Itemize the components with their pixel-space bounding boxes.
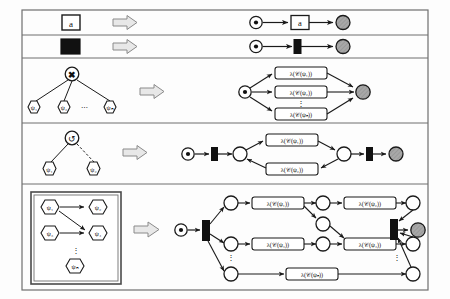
loop-do-transition: λ(𝒞(ψ₁)) (266, 134, 318, 146)
transition-label: λ(𝒞(ψₙ)) (301, 271, 323, 279)
and-split-transition (202, 220, 210, 241)
place (224, 267, 238, 281)
po-hexagon-label: ψ₄ (95, 230, 102, 237)
leaf-silent-node (61, 39, 80, 54)
silent-transition-end (366, 147, 373, 161)
transition-label: λ(𝒞(ψ₂)) (359, 200, 381, 208)
po-hexagon-label: ψ₁ (47, 204, 53, 211)
transition-a-label: a (298, 18, 302, 28)
leaf-hexagon-label: ψ₂ (61, 104, 67, 111)
po-transition-n: λ(𝒞(ψₙ)) (286, 268, 338, 280)
initial-token (179, 228, 183, 232)
figure-canvas: a a (0, 0, 450, 299)
loop-exit-place (337, 147, 351, 161)
leaf-hexagon-label: ψ₁ (46, 166, 52, 173)
place (224, 237, 238, 251)
vertical-ellipsis-left: ⋮ (227, 253, 235, 262)
loop-operator-symbol: ↺ (68, 134, 76, 144)
sink-place (389, 147, 403, 161)
transition-label: λ(𝒞(ψ₁)) (267, 200, 289, 208)
xor-operator-symbol: ✖ (68, 70, 76, 80)
xor-branch-n: λ(𝒞(ψₙ)) (275, 108, 327, 120)
place (316, 237, 330, 251)
po-transition-1: λ(𝒞(ψ₁)) (252, 197, 304, 209)
po-hexagon-label: ψₙ (71, 263, 78, 270)
vertical-ellipsis: ⋮ (297, 99, 305, 108)
place (316, 196, 330, 210)
sink-place (336, 40, 350, 54)
redo-transition-label: λ(𝒞(ψ₂)) (281, 166, 303, 174)
po-transition-3: λ(𝒞(ψ₃)) (252, 238, 304, 250)
loop-redo-transition: λ(𝒞(ψ₂)) (266, 163, 318, 175)
vertical-ellipsis-right: ⋮ (393, 253, 401, 262)
silent-transition-start (211, 147, 218, 161)
vertical-ellipsis: ⋮ (72, 246, 80, 255)
transition-label: λ(𝒞(ψ₄)) (359, 241, 381, 249)
xor-branch-2: λ(𝒞(ψ₂)) (275, 86, 327, 98)
place (406, 196, 420, 210)
po-hexagon-label: ψ₂ (95, 204, 101, 211)
initial-token (243, 90, 247, 94)
sink-place (356, 85, 370, 99)
initial-token (254, 44, 258, 48)
po-transition-4: λ(𝒞(ψ₄)) (344, 238, 396, 250)
sink-place (336, 16, 350, 30)
place (224, 196, 238, 210)
branch-transition-label: λ(𝒞(ψ₂)) (290, 89, 312, 97)
po-transition-2: λ(𝒞(ψ₂)) (344, 197, 396, 209)
place (406, 267, 420, 281)
sink-place (411, 223, 425, 237)
po-hexagon-label: ψ₃ (47, 230, 53, 237)
leaf-activity-label: a (69, 19, 73, 29)
branch-transition-label: λ(𝒞(ψ₁)) (290, 70, 312, 78)
translation-rules-diagram: a a (0, 0, 450, 299)
place (406, 237, 420, 251)
initial-token (254, 20, 258, 24)
place (316, 217, 330, 231)
xor-branch-1: λ(𝒞(ψ₁)) (275, 67, 327, 79)
transition-label: λ(𝒞(ψ₃)) (267, 241, 289, 249)
branch-transition-label: λ(𝒞(ψₙ)) (290, 111, 312, 119)
initial-token (186, 152, 190, 156)
loop-entry-place (233, 147, 247, 161)
leaf-hexagon-label: ψ₂ (90, 166, 96, 173)
leaf-hexagon-label: ψ₁ (31, 104, 37, 111)
leaf-hexagon-label: ψₙ (106, 104, 113, 111)
silent-transition (294, 40, 301, 54)
and-join-transition (390, 219, 398, 240)
horizontal-ellipsis: ⋯ (81, 104, 88, 112)
do-transition-label: λ(𝒞(ψ₁)) (281, 137, 303, 145)
